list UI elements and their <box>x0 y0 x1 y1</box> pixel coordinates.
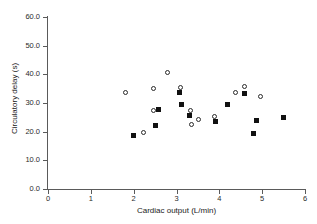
x-tick-label: 3 <box>167 195 187 203</box>
x-tick-label: 5 <box>252 195 272 203</box>
y-tick-label: 50.0 <box>0 42 40 50</box>
data-point-filled-square <box>213 119 218 124</box>
data-point-open-circle <box>233 90 238 95</box>
data-point-open-circle <box>242 84 247 89</box>
y-tick-mark <box>43 103 47 104</box>
data-point-open-circle <box>151 86 156 91</box>
data-point-filled-square <box>153 123 158 128</box>
data-point-filled-square <box>179 102 184 107</box>
plot-area <box>48 17 305 189</box>
x-tick-label: 1 <box>81 195 101 203</box>
y-tick-mark <box>43 132 47 133</box>
y-tick-label: 0.0 <box>0 185 40 193</box>
x-tick-label: 2 <box>124 195 144 203</box>
y-tick-label: 20.0 <box>0 128 40 136</box>
y-tick-mark <box>43 189 47 190</box>
data-point-filled-square <box>177 90 182 95</box>
y-axis-title: Circulatory delay (s) <box>10 29 19 169</box>
data-point-open-circle <box>123 90 128 95</box>
data-point-open-circle <box>212 114 217 119</box>
scatter-chart-figure: 0.010.020.030.040.050.060.0 0123456 Card… <box>0 0 317 224</box>
data-point-filled-square <box>251 131 256 136</box>
data-point-filled-square <box>242 91 247 96</box>
data-point-filled-square <box>225 102 230 107</box>
x-tick-label: 0 <box>38 195 58 203</box>
data-point-filled-square <box>281 115 286 120</box>
data-point-filled-square <box>156 107 161 112</box>
x-axis-title: Cardiac output (L/min) <box>48 206 305 215</box>
data-point-open-circle <box>141 130 146 135</box>
y-tick-label: 10.0 <box>0 156 40 164</box>
y-tick-mark <box>43 46 47 47</box>
y-tick-mark <box>43 160 47 161</box>
y-tick-mark <box>43 17 47 18</box>
x-tick-label: 4 <box>209 195 229 203</box>
data-point-filled-square <box>187 113 192 118</box>
x-tick-label: 6 <box>295 195 315 203</box>
y-tick-label: 30.0 <box>0 99 40 107</box>
y-tick-label: 60.0 <box>0 13 40 21</box>
data-point-filled-square <box>131 133 136 138</box>
y-tick-label: 40.0 <box>0 70 40 78</box>
data-point-filled-square <box>254 118 259 123</box>
y-tick-mark <box>43 74 47 75</box>
